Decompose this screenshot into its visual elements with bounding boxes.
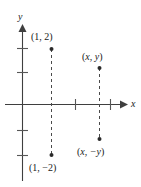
point-label-x-negy: (x, −y) — [77, 147, 104, 157]
coordinate-plane-figure: y x (1, 2) (1, −2) (x, y) (x, −y) — [0, 0, 141, 187]
data-point-1-neg2 — [50, 153, 54, 157]
axes-and-points-svg — [0, 0, 141, 187]
y-axis-label: y — [18, 12, 22, 22]
paren-close: ) — [101, 146, 104, 157]
point-label-x-y: (x, y) — [82, 52, 103, 62]
paren-close: ) — [49, 31, 52, 42]
data-point-x-y — [98, 66, 102, 70]
coord-y-value: −y — [90, 146, 101, 157]
data-point-x-negy — [98, 137, 102, 141]
coord-y-value: −2 — [42, 162, 53, 173]
paren-close: ) — [99, 51, 102, 62]
x-axis-label: x — [131, 99, 135, 109]
point-label-1-neg2: (1, −2) — [29, 163, 56, 173]
y-axis-arrowhead — [19, 24, 27, 32]
point-label-1-2: (1, 2) — [31, 32, 53, 42]
data-point-1-2 — [50, 47, 54, 51]
paren-close: ) — [53, 162, 56, 173]
x-axis-arrowhead — [120, 101, 128, 109]
